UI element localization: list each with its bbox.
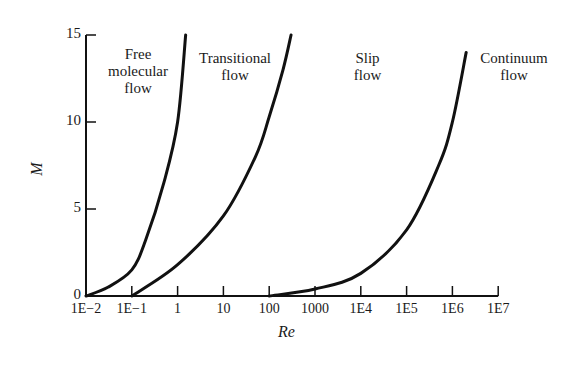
x-tick-label: 100 [259, 301, 280, 317]
region-line: flow [473, 67, 555, 84]
y-tick-label: 15 [61, 25, 81, 42]
region-label-transitional: Transitional flow [191, 50, 279, 84]
region-line: flow [103, 80, 173, 97]
x-tick-label: 1E−1 [117, 301, 147, 317]
region-label-free-molecular: Free molecular flow [103, 46, 173, 97]
y-tick-label: 0 [61, 286, 81, 303]
x-tick-label: 1 [174, 301, 181, 317]
region-label-slip: Slip flow [345, 50, 390, 84]
flow-regime-chart: Free molecular flow Transitional flow Sl… [0, 0, 576, 366]
x-tick-label: 1E5 [395, 301, 418, 317]
region-line: Free [103, 46, 173, 63]
y-axis-title: M [28, 162, 46, 175]
y-tick-label: 10 [61, 112, 81, 129]
region-label-continuum: Continuum flow [473, 50, 555, 84]
x-tick-label: 1E4 [350, 301, 373, 317]
x-tick-label: 1E7 [487, 301, 510, 317]
x-axis-title: Re [278, 323, 295, 341]
x-tick-label: 1000 [301, 301, 329, 317]
region-line: flow [191, 67, 279, 84]
region-line: Slip [345, 50, 390, 67]
x-tick-label: 1E−2 [71, 301, 101, 317]
x-tick-label: 10 [216, 301, 230, 317]
x-tick-label: 1E6 [441, 301, 464, 317]
y-tick-label: 5 [61, 199, 81, 216]
region-line: Continuum [473, 50, 555, 67]
region-line: Transitional [191, 50, 279, 67]
region-line: molecular [103, 63, 173, 80]
region-line: flow [345, 67, 390, 84]
regime-boundary-curve-3 [269, 52, 466, 296]
